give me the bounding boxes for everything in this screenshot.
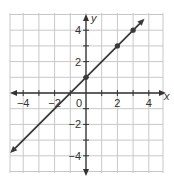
y-axis-up-arrow-icon — [83, 14, 89, 21]
x-tick-label: 2 — [114, 97, 120, 109]
x-tick-label: −2 — [48, 97, 61, 109]
coordinate-plane: −4−202442−2−4 x y — [0, 0, 174, 183]
x-axis-left-arrow-icon — [10, 90, 17, 96]
axes — [10, 14, 166, 176]
y-axis-down-arrow-icon — [83, 169, 89, 176]
y-tick-label: −2 — [68, 118, 81, 130]
x-axis-label: x — [163, 90, 170, 102]
x-tick-label: 4 — [146, 97, 152, 109]
data-point — [131, 28, 136, 33]
y-tick-label: 2 — [75, 56, 81, 68]
x-tick-label: 0 — [76, 97, 82, 109]
function-line — [12, 21, 142, 151]
line-series — [10, 19, 144, 153]
y-axis-label: y — [90, 12, 98, 24]
data-point — [83, 75, 88, 80]
data-point — [115, 43, 120, 48]
y-tick-label: −4 — [68, 150, 81, 162]
x-tick-label: −4 — [17, 97, 30, 109]
y-tick-label: 4 — [75, 24, 81, 36]
